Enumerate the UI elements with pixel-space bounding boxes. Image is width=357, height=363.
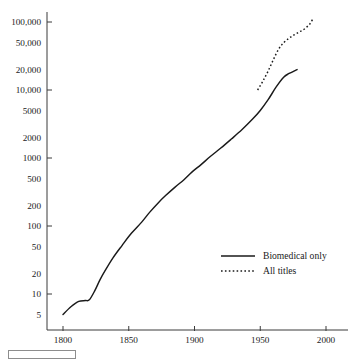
y-tick-label: 5: [36, 310, 41, 320]
x-axis: 18001850190019502000: [47, 326, 348, 345]
y-tick-label: 10,000: [16, 85, 42, 95]
x-tick-label: 2000: [317, 335, 336, 345]
y-tick-label: 500: [27, 174, 41, 184]
x-tick-label: 1800: [54, 335, 73, 345]
data-series-line: [63, 70, 297, 315]
y-tick-label: 20: [32, 269, 42, 279]
y-tick-label: 50: [32, 242, 42, 252]
chart-container: 510205010020050010002000500010,00020,000…: [0, 0, 357, 363]
y-axis: 510205010020050010002000500010,00020,000…: [11, 12, 52, 330]
y-tick-label: 100: [27, 221, 41, 231]
caption-box: [8, 350, 76, 359]
x-tick-label: 1850: [120, 335, 139, 345]
y-tick-label: 200: [27, 201, 41, 211]
chart-legend: Biomedical onlyAll titles: [221, 250, 327, 276]
y-tick-label: 10: [32, 289, 42, 299]
x-tick-label: 1950: [251, 335, 270, 345]
y-tick-label: 20,000: [16, 65, 42, 75]
x-tick-label: 1900: [185, 335, 204, 345]
y-tick-label: 2000: [23, 133, 42, 143]
legend-label: Biomedical only: [263, 250, 327, 261]
y-tick-label: 1000: [23, 153, 42, 163]
data-series-line: [258, 19, 313, 90]
y-tick-label: 100,000: [11, 17, 41, 27]
y-tick-label: 50,000: [16, 38, 42, 48]
line-chart-plot: 510205010020050010002000500010,00020,000…: [0, 0, 357, 363]
y-tick-label: 5000: [23, 106, 42, 116]
legend-label: All titles: [263, 265, 297, 276]
